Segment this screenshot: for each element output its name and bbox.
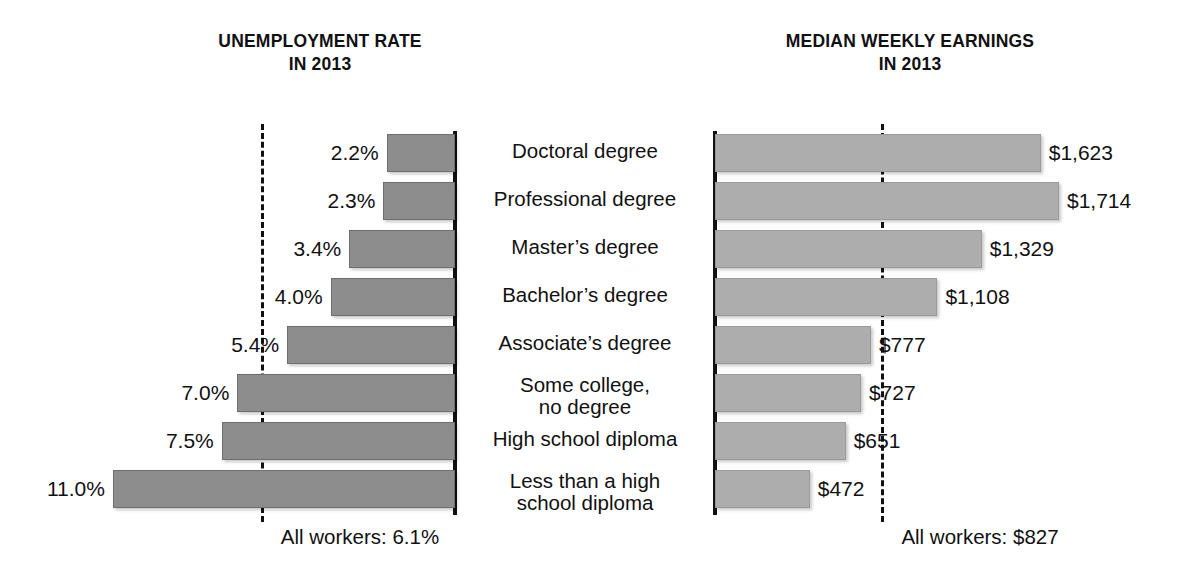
- unemployment-bar: [287, 326, 455, 364]
- earnings-value-label: $651: [854, 422, 901, 460]
- chart-row: 7.0%Some college,no degree$727: [0, 374, 1181, 422]
- chart-row: 5.4%Associate’s degree$777: [0, 326, 1181, 374]
- earnings-bar: [715, 278, 937, 316]
- category-label-line1: Master’s degree: [511, 235, 658, 258]
- unemployment-value-label: 3.4%: [293, 230, 341, 268]
- earnings-bar: [715, 134, 1041, 172]
- unemployment-value-label: 4.0%: [275, 278, 323, 316]
- earnings-value-label: $727: [869, 374, 916, 412]
- unemployment-bar: [222, 422, 455, 460]
- chart-row: 2.2%Doctoral degree$1,623: [0, 134, 1181, 182]
- earnings-value-label: $472: [818, 470, 865, 508]
- earnings-value-label: $777: [879, 326, 926, 364]
- unemployment-value-label: 11.0%: [47, 470, 105, 508]
- earnings-bar: [715, 374, 861, 412]
- category-label-line1: Bachelor’s degree: [502, 283, 668, 306]
- category-label-line2: no degree: [457, 396, 713, 418]
- category-label: Bachelor’s degree: [457, 284, 713, 306]
- category-label: High school diploma: [457, 428, 713, 450]
- category-label-line1: High school diploma: [493, 427, 678, 450]
- earnings-value-label: $1,623: [1049, 134, 1113, 172]
- earnings-bar: [715, 230, 982, 268]
- category-label: Doctoral degree: [457, 140, 713, 162]
- unemployment-bar: [349, 230, 455, 268]
- unemployment-value-label: 7.5%: [166, 422, 214, 460]
- unemployment-value-label: 2.3%: [328, 182, 376, 220]
- category-label: Less than a highschool diploma: [457, 470, 713, 514]
- chart-row: 2.3%Professional degree$1,714: [0, 182, 1181, 230]
- chart-row: 4.0%Bachelor’s degree$1,108: [0, 278, 1181, 326]
- category-label: Some college,no degree: [457, 374, 713, 418]
- category-label-line1: Doctoral degree: [512, 139, 658, 162]
- chart-row: 7.5%High school diploma$651: [0, 422, 1181, 470]
- chart-row: 3.4%Master’s degree$1,329: [0, 230, 1181, 278]
- right-title-line1: MEDIAN WEEKLY EARNINGS: [786, 31, 1034, 51]
- unemployment-value-label: 7.0%: [181, 374, 229, 412]
- left-chart-title: UNEMPLOYMENT RATE IN 2013: [120, 30, 520, 76]
- unemployment-bar: [237, 374, 455, 412]
- chart-row: 11.0%Less than a highschool diploma$472: [0, 470, 1181, 518]
- left-title-line2: IN 2013: [120, 53, 520, 76]
- left-footer-all-workers: All workers: 6.1%: [200, 525, 520, 549]
- right-chart-title: MEDIAN WEEKLY EARNINGS IN 2013: [700, 30, 1120, 76]
- unemployment-bar: [387, 134, 455, 172]
- chart-canvas: UNEMPLOYMENT RATE IN 2013 MEDIAN WEEKLY …: [0, 0, 1181, 588]
- earnings-value-label: $1,108: [945, 278, 1009, 316]
- category-label: Master’s degree: [457, 236, 713, 258]
- unemployment-value-label: 2.2%: [331, 134, 379, 172]
- unemployment-bar: [383, 182, 455, 220]
- category-label-line1: Some college,: [520, 373, 650, 396]
- category-label-line1: Less than a high: [510, 469, 660, 492]
- category-label-line1: Professional degree: [494, 187, 676, 210]
- right-title-line2: IN 2013: [700, 53, 1120, 76]
- earnings-value-label: $1,714: [1067, 182, 1131, 220]
- right-footer-all-workers: All workers: $827: [820, 525, 1140, 549]
- category-label-line1: Associate’s degree: [499, 331, 672, 354]
- earnings-bar: [715, 326, 871, 364]
- earnings-value-label: $1,329: [990, 230, 1054, 268]
- unemployment-bar: [331, 278, 455, 316]
- earnings-bar: [715, 182, 1059, 220]
- earnings-bar: [715, 422, 846, 460]
- earnings-bar: [715, 470, 810, 508]
- left-title-line1: UNEMPLOYMENT RATE: [218, 31, 421, 51]
- category-label: Associate’s degree: [457, 332, 713, 354]
- unemployment-bar: [113, 470, 455, 508]
- category-label: Professional degree: [457, 188, 713, 210]
- category-label-line2: school diploma: [457, 492, 713, 514]
- unemployment-value-label: 5.4%: [231, 326, 279, 364]
